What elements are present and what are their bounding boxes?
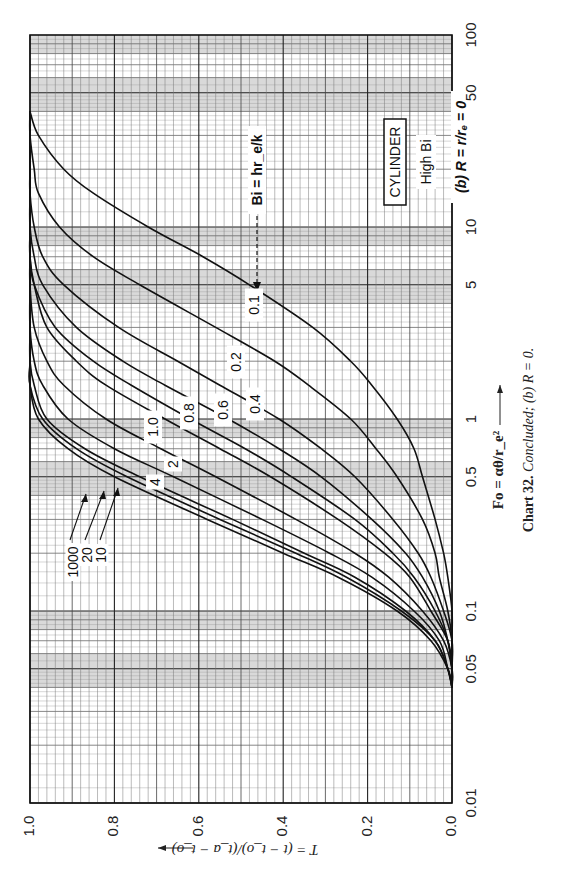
y-axis-title: T = (t − t_o)/(t_a − t_o) bbox=[172, 841, 319, 858]
chart: CYLINDERHigh Bi(b) R = r/rₑ = 0Bi = hr_e… bbox=[0, 0, 576, 880]
x-axis-title: Fo = αθ/r_e² bbox=[490, 430, 506, 509]
x-tick-label: 0.01 bbox=[462, 788, 479, 817]
curve-label-1.0: 1.0 bbox=[144, 411, 162, 444]
figure-caption: Chart 32. Concluded; (b) R = 0. bbox=[521, 348, 537, 532]
curve-label-4: 4 bbox=[146, 475, 164, 490]
curve-label-0.2: 0.2 bbox=[227, 346, 245, 379]
parameter-label: Bi = hr_e/k bbox=[248, 126, 266, 214]
svg-text:High Bi: High Bi bbox=[418, 139, 434, 184]
svg-text:4: 4 bbox=[147, 478, 163, 486]
chart-subtitle: High Bi bbox=[416, 135, 436, 189]
svg-text:0.6: 0.6 bbox=[215, 400, 231, 420]
y-tick-label: 0.8 bbox=[104, 816, 121, 837]
svg-text:10: 10 bbox=[93, 547, 109, 563]
x-tick-label: 50 bbox=[462, 84, 479, 101]
curve-label-10: 10 bbox=[93, 544, 109, 566]
x-tick-label: 0.5 bbox=[462, 466, 479, 487]
svg-text:2: 2 bbox=[165, 460, 181, 468]
y-tick-label: 0.0 bbox=[442, 816, 459, 837]
curve-label-0.6: 0.6 bbox=[214, 394, 232, 427]
svg-text:1.0: 1.0 bbox=[145, 417, 161, 437]
svg-text:0.8: 0.8 bbox=[181, 403, 197, 423]
x-tick-label: 0.05 bbox=[462, 654, 479, 683]
svg-text:0.1: 0.1 bbox=[246, 295, 262, 315]
y-tick-label: 0.4 bbox=[273, 816, 290, 837]
svg-text:(b) R = r/rₑ = 0: (b) R = r/rₑ = 0 bbox=[453, 101, 469, 193]
x-tick-label: 100 bbox=[462, 22, 479, 47]
curve-label-0.4: 0.4 bbox=[246, 388, 264, 421]
x-tick-label: 0.1 bbox=[462, 601, 479, 622]
svg-text:0.4: 0.4 bbox=[247, 394, 263, 414]
x-tick-label: 1 bbox=[462, 415, 479, 423]
y-tick-label: 0.6 bbox=[189, 816, 206, 837]
svg-text:0.2: 0.2 bbox=[228, 352, 244, 372]
chart-title-box: CYLINDER bbox=[384, 119, 406, 205]
curve-label-0.1: 0.1 bbox=[245, 289, 263, 322]
x-tick-label: 5 bbox=[462, 281, 479, 289]
curve-label-0.8: 0.8 bbox=[180, 397, 198, 430]
x-tick-label: 10 bbox=[462, 219, 479, 236]
panel-label: (b) R = r/rₑ = 0 bbox=[451, 91, 471, 203]
svg-text:CYLINDER: CYLINDER bbox=[387, 127, 403, 198]
y-tick-label: 0.2 bbox=[358, 816, 375, 837]
svg-text:Bi = hr_e/k: Bi = hr_e/k bbox=[249, 134, 265, 205]
curve-label-2: 2 bbox=[164, 457, 182, 472]
y-tick-label: 1.0 bbox=[20, 816, 37, 837]
